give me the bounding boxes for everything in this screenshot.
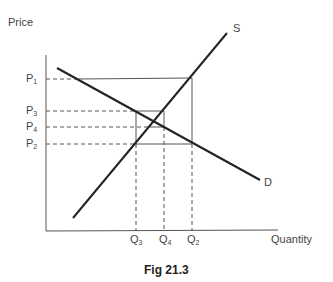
q4-label: Q4 [159, 233, 171, 246]
supply-curve [73, 33, 227, 218]
demand-curve [57, 68, 260, 180]
x-axis-label: Quantity [271, 233, 312, 245]
x-axis [46, 230, 278, 231]
supply-label: S [233, 22, 240, 34]
y-axis-label: Price [8, 16, 33, 28]
p3-label: P3 [26, 104, 37, 117]
q3-label: Q3 [130, 233, 142, 246]
p1-label: P1 [26, 72, 37, 85]
demand-label: D [264, 176, 272, 188]
figure-caption: Fig 21.3 [144, 263, 189, 277]
p2-label: P2 [26, 137, 37, 150]
q2-label: Q2 [187, 233, 199, 246]
p4-label: P4 [26, 120, 37, 133]
